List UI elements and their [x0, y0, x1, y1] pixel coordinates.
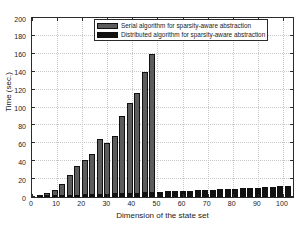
- x-tick-mark: [283, 194, 284, 197]
- x-tick-label: 10: [46, 200, 66, 207]
- y-tick-mark: [32, 124, 35, 125]
- x-axis-title: Dimension of the state set: [31, 212, 294, 220]
- chart-legend: Serial algorithm for sparsity-aware abst…: [94, 19, 268, 41]
- x-tick-mark: [132, 194, 133, 197]
- y-tick-mark: [290, 53, 293, 54]
- x-tick-mark: [82, 18, 83, 21]
- x-tick-mark: [32, 194, 33, 197]
- y-tick-mark: [290, 160, 293, 161]
- y-tick-label: 180: [14, 33, 26, 40]
- y-tick-mark: [290, 196, 293, 197]
- y-tick-label: 140: [14, 69, 26, 76]
- x-tick-mark: [183, 194, 184, 197]
- x-tick-label: 20: [71, 200, 91, 207]
- y-tick-label: 80: [18, 123, 26, 130]
- x-tick-label: 100: [272, 200, 292, 207]
- y-axis-title: Time (sec.): [5, 57, 13, 127]
- y-tick-mark: [32, 71, 35, 72]
- legend-swatch-distributed-icon: [97, 32, 118, 38]
- y-tick-mark: [290, 89, 293, 90]
- y-tick-mark: [290, 17, 293, 18]
- x-tick-mark: [57, 194, 58, 197]
- y-tick-mark: [32, 53, 35, 54]
- x-tick-mark: [82, 194, 83, 197]
- x-tick-mark: [208, 194, 209, 197]
- y-tick-mark: [32, 178, 35, 179]
- x-tick-label: 70: [197, 200, 217, 207]
- y-tick-mark: [290, 35, 293, 36]
- y-tick-mark: [32, 142, 35, 143]
- x-tick-mark: [283, 18, 284, 21]
- x-tick-label: 80: [222, 200, 242, 207]
- axis-tick-marks: [32, 18, 293, 197]
- legend-item-serial: Serial algorithm for sparsity-aware abst…: [97, 21, 265, 30]
- x-tick-mark: [32, 18, 33, 21]
- x-tick-label: 90: [247, 200, 267, 207]
- plot-area: [31, 17, 294, 198]
- y-tick-label: 100: [14, 105, 26, 112]
- y-tick-label: 40: [18, 159, 26, 166]
- x-axis-tick-labels: 0102030405060708090100: [31, 200, 294, 210]
- y-tick-mark: [290, 124, 293, 125]
- y-tick-label: 20: [18, 177, 26, 184]
- x-tick-mark: [107, 194, 108, 197]
- y-tick-label: 200: [14, 16, 26, 23]
- x-tick-label: 0: [21, 200, 41, 207]
- y-tick-mark: [290, 178, 293, 179]
- x-tick-mark: [233, 194, 234, 197]
- y-tick-label: 120: [14, 87, 26, 94]
- x-tick-mark: [258, 194, 259, 197]
- y-tick-mark: [290, 71, 293, 72]
- y-tick-mark: [290, 107, 293, 108]
- y-tick-mark: [32, 107, 35, 108]
- y-tick-mark: [290, 142, 293, 143]
- x-tick-label: 40: [121, 200, 141, 207]
- x-tick-label: 30: [96, 200, 116, 207]
- legend-item-distributed: Distributed algorithm for sparsity-aware…: [97, 30, 265, 39]
- y-tick-label: 60: [18, 141, 26, 148]
- y-tick-mark: [32, 35, 35, 36]
- bar-chart-figure: 020406080100120140160180200 010203040506…: [0, 0, 302, 247]
- x-tick-mark: [57, 18, 58, 21]
- x-tick-label: 60: [172, 200, 192, 207]
- y-tick-mark: [32, 89, 35, 90]
- x-tick-label: 50: [146, 200, 166, 207]
- legend-label-serial: Serial algorithm for sparsity-aware abst…: [121, 22, 251, 29]
- y-tick-label: 160: [14, 51, 26, 58]
- y-tick-mark: [32, 160, 35, 161]
- legend-swatch-serial-icon: [97, 23, 118, 29]
- x-tick-mark: [157, 194, 158, 197]
- legend-label-distributed: Distributed algorithm for sparsity-aware…: [121, 31, 265, 38]
